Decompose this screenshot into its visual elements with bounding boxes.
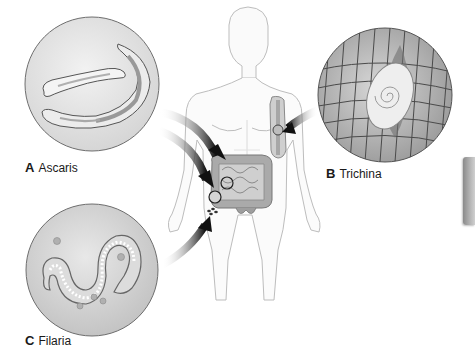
intestines: [207, 155, 272, 215]
panel-name: Filaria: [38, 334, 71, 348]
panel-a-ascaris-circle: [25, 17, 159, 151]
panel-name: Ascaris: [38, 161, 77, 175]
panel-letter: C: [25, 333, 34, 348]
label-panel-b: BTrichina: [326, 166, 382, 181]
label-panel-a: AAscaris: [25, 160, 78, 175]
panel-letter: B: [326, 166, 335, 181]
panel-b-trichina-circle: [318, 28, 452, 162]
side-thumb-tab: [463, 157, 475, 225]
panel-letter: A: [25, 160, 34, 175]
panel-c-filaria-circle: [26, 204, 158, 336]
arm-muscle: [270, 96, 286, 158]
trichina-site-marker: [273, 125, 283, 135]
filaria-site-marker: [209, 191, 221, 203]
panel-name: Trichina: [339, 167, 381, 181]
label-panel-c: CFilaria: [25, 333, 71, 348]
